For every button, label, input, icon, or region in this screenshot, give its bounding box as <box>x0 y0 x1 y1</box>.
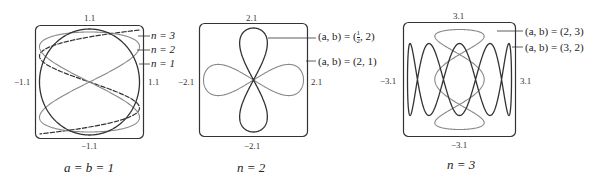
caption: n = 3 <box>447 157 475 173</box>
tick-top: 3.1 <box>453 11 464 21</box>
tick-right: 3.1 <box>520 76 531 86</box>
tick-bottom: −3.1 <box>451 140 467 150</box>
label-a2-b3: (a, b) = (2, 3) <box>525 25 584 37</box>
tick-left: −3.1 <box>380 76 396 86</box>
curve-a2-b3 <box>435 30 484 130</box>
label-a3-b2: (a, b) = (3, 2) <box>525 41 584 53</box>
panel-n-3: 3.1 −3.1 −3.1 3.1 (a, b) = (2, 3) (a, b)… <box>0 0 599 184</box>
plot-frame <box>404 23 516 137</box>
plot-n-3 <box>0 0 599 184</box>
